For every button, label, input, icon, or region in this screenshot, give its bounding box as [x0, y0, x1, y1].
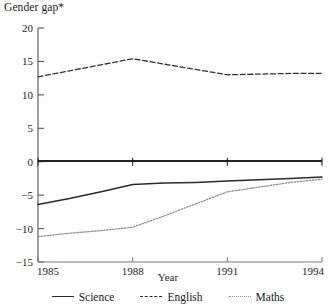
series-line-maths — [38, 179, 322, 236]
data-series-group — [38, 59, 322, 237]
y-tick-label: 10 — [22, 89, 34, 101]
legend-line-science-icon — [52, 293, 74, 301]
y-tick-label: −15 — [16, 256, 34, 268]
legend-item-english[interactable]: English — [140, 291, 202, 303]
gender-gap-line-chart: Gender gap* 20151050−5−10−15 19851988199… — [0, 0, 336, 308]
y-tick-label: −10 — [16, 223, 34, 235]
plot-area: 20151050−5−10−15 1985198819911994 — [0, 0, 336, 308]
legend-line-english-icon — [140, 293, 162, 301]
legend-label-science: Science — [79, 291, 115, 303]
chart-legend: Science English Maths — [0, 288, 336, 306]
y-tick-label: 0 — [28, 156, 34, 168]
y-tick-label: −5 — [21, 189, 33, 201]
y-tick-label: 5 — [28, 122, 34, 134]
legend-item-science[interactable]: Science — [52, 291, 115, 303]
y-tick-label: 15 — [22, 55, 34, 67]
series-line-science — [38, 177, 322, 204]
legend-label-english: English — [167, 291, 202, 303]
legend-label-maths: Maths — [256, 291, 285, 303]
y-tick-label: 20 — [22, 22, 34, 34]
legend-line-maths-icon — [229, 293, 251, 301]
y-tick-marks — [38, 28, 44, 262]
legend-item-maths[interactable]: Maths — [229, 291, 285, 303]
y-tick-labels: 20151050−5−10−15 — [16, 22, 34, 268]
series-line-english — [38, 59, 322, 77]
x-axis-title: Year — [0, 271, 336, 283]
